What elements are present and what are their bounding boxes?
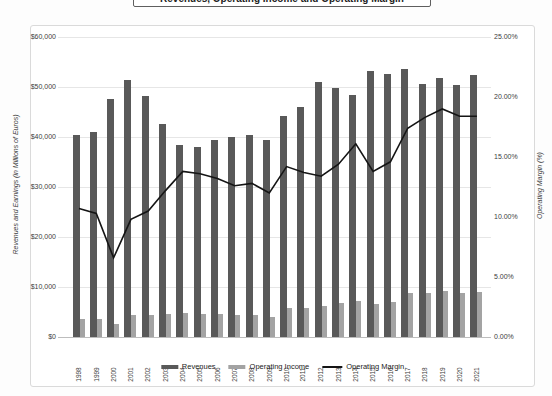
x-axis-year-label: 2021 (473, 367, 480, 381)
legend: Revenues Operating Income Operating Marg… (161, 362, 404, 371)
revenues-legend-label: Revenues (182, 362, 216, 371)
operating-income-swatch (229, 365, 246, 369)
chart-title: Revenues, Operating Income and Operating… (160, 0, 404, 4)
chart-title-box: Revenues, Operating Income and Operating… (133, 0, 431, 7)
operating-margin-legend-label: Operating Margin (346, 362, 404, 371)
legend-item-operating-income: Operating Income (229, 362, 310, 371)
operating-margin-swatch (322, 366, 342, 368)
legend-item-revenues: Revenues (161, 362, 216, 371)
right-axis-title: Operating Margin (%) (536, 144, 543, 228)
left-axis-title: Revenues and Earnings (in Millions of Eu… (12, 110, 19, 260)
chart-screenshot: Revenues, Operating Income and Operating… (0, 0, 552, 396)
operating-income-legend-label: Operating Income (250, 362, 310, 371)
operating-margin-line (79, 109, 477, 258)
chart-panel: $0$10,000$20,000$30,000$40,000$50,000$60… (30, 25, 535, 387)
revenues-swatch (161, 365, 178, 369)
x-axis-label-cell: 2021 (456, 352, 496, 396)
legend-item-operating-margin: Operating Margin (322, 362, 404, 371)
